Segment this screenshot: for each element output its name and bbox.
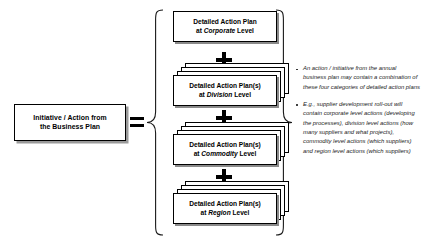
initiative-action-box: Initiative / Action from the Business Pl… xyxy=(14,104,126,141)
bullet-dot-icon xyxy=(296,104,298,106)
detailed-action-plan-region-box: Detailed Action Plan(s)at Region Level xyxy=(173,193,277,224)
bullet-dot-icon xyxy=(296,69,298,71)
note-item: An action / initiative from the annual b… xyxy=(296,64,420,92)
note-text: E.g., supplier development roll-out will… xyxy=(303,101,415,154)
detailed-action-plan-division-box: Detailed Action Plan(s)at Division Level xyxy=(173,75,277,106)
note-item: E.g., supplier development roll-out will… xyxy=(296,100,420,156)
notes-list: An action / initiative from the annual b… xyxy=(296,64,420,164)
note-text: An action / initiative from the annual b… xyxy=(303,65,420,90)
plan-group-division: Detailed Action Plan(s)at Division Level xyxy=(173,63,291,110)
plan-group-region: Detailed Action Plan(s)at Region Level xyxy=(173,181,291,228)
plan-region-label: Detailed Action Plan(s)at Region Level xyxy=(189,200,261,216)
plan-group-corporate: Detailed Action Planat Corporate Level xyxy=(173,5,277,48)
plan-corporate-label: Detailed Action Planat Corporate Level xyxy=(193,18,257,34)
detailed-action-plan-commodity-box: Detailed Action Plan(s)at Commodity Leve… xyxy=(173,134,277,165)
plan-commodity-label: Detailed Action Plan(s)at Commodity Leve… xyxy=(189,141,261,157)
left-curly-brace xyxy=(146,9,164,236)
detailed-action-plan-corporate-box: Detailed Action Planat Corporate Level xyxy=(173,11,277,42)
equals-sign xyxy=(130,112,144,132)
plan-division-label: Detailed Action Plan(s)at Division Level xyxy=(189,82,261,98)
initiative-breakdown-diagram: Initiative / Action from the Business Pl… xyxy=(0,0,429,245)
initiative-action-label: Initiative / Action from the Business Pl… xyxy=(33,114,106,131)
plan-group-commodity: Detailed Action Plan(s)at Commodity Leve… xyxy=(173,122,291,169)
